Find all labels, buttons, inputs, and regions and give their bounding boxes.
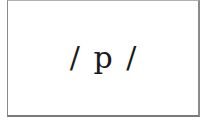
phoneme-card: / p / (7, 0, 200, 117)
phoneme-text: / p / (70, 40, 139, 75)
